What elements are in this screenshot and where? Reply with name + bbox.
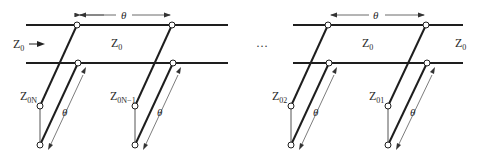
stub-label-z0n: Z0N [20,89,37,105]
input-arrow-icon [37,41,45,47]
arrowhead-icon [81,67,86,74]
theta-label-stub-z01: θ [410,106,416,118]
theta-label-section-right: θ [373,9,379,21]
arrowhead-icon [299,143,304,150]
z0-section-label-left: Z0 [111,36,122,52]
arrowhead-icon [48,143,53,150]
arrowhead-icon [79,13,86,18]
stub-z0n: θ Z0N [20,22,86,150]
stub-label-z02: Z02 [272,89,287,105]
stub-z0n-minus-1: θ Z0N−1 [110,22,181,150]
left-section: θ Z0 Z0 θ Z0N θ [13,9,228,150]
arrowhead-icon [176,67,181,74]
arrowhead-icon [330,13,337,18]
arrowhead-icon [332,67,337,74]
theta-label-stub-z0n: θ [62,106,68,118]
arrowhead-icon [143,143,148,150]
ellipsis: … [256,36,268,50]
theta-label-section-left: θ [121,9,127,21]
arrowhead-icon [430,67,435,74]
stub-label-z0n-minus-1: Z0N−1 [110,89,136,105]
theta-label-stub-z0n-minus-1: θ [157,106,163,118]
stub-z02: θ Z02 [272,22,337,150]
stub-z01: θ Z01 [369,22,435,150]
z0-input-label: Z0 [13,37,24,53]
stub-label-z01: Z01 [369,89,384,105]
arrowhead-icon [418,13,425,18]
z0-section-label-right: Z0 [362,36,373,52]
arrowhead-icon [396,143,401,150]
right-section: θ Z0 Z0 θ Z02 θ Z01 [272,9,466,150]
z0-output-label: Z0 [455,36,466,52]
arrowhead-icon [164,13,171,18]
stub-network-diagram: θ Z0 Z0 θ Z0N θ [0,0,478,158]
theta-label-stub-z02: θ [313,106,319,118]
